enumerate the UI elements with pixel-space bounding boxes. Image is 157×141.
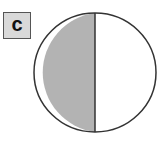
fraction-circle [0, 0, 157, 141]
